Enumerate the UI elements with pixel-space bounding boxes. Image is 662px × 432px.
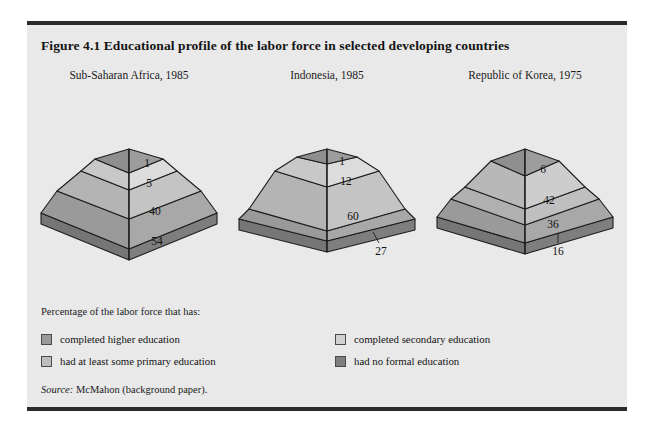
pyramid-chart-group: Sub-Saharan Africa, 1985 xyxy=(27,69,627,287)
legend-swatch-icon xyxy=(335,334,346,345)
legend-item-higher-education: completed higher education xyxy=(41,333,180,345)
pyramid-heading: Indonesia, 1985 xyxy=(227,69,427,81)
value-label-2-1: 42 xyxy=(543,194,555,206)
legend-swatch-icon xyxy=(41,356,52,367)
legend-item-label: had no formal education xyxy=(354,355,459,367)
pyramid-panel-sub-saharan-africa: Sub-Saharan Africa, 1985 xyxy=(29,69,229,287)
value-label-0-3: 54 xyxy=(151,235,163,247)
value-label-2-2: 36 xyxy=(547,218,559,230)
legend-item-secondary-education: completed secondary education xyxy=(335,333,490,345)
source-note: Source: McMahon (background paper). xyxy=(41,384,207,395)
legend-item-no-formal-education: had no formal education xyxy=(335,355,459,367)
source-text: McMahon (background paper). xyxy=(73,384,207,395)
top-rule xyxy=(27,21,627,25)
pyramid-heading: Republic of Korea, 1975 xyxy=(425,69,625,81)
legend-item-primary-education: had at least some primary education xyxy=(41,355,216,367)
value-label-1-1: 12 xyxy=(340,175,352,187)
pyramid-panel-republic-of-korea: Republic of Korea, 1975 xyxy=(425,69,625,287)
value-label-1-2: 60 xyxy=(347,210,359,222)
figure-root: Figure 4.1 Educational profile of the la… xyxy=(0,0,662,432)
pyramid-chart-0: 1 5 40 54 xyxy=(29,91,229,281)
pyramid-heading: Sub-Saharan Africa, 1985 xyxy=(29,69,229,81)
figure-panel: Figure 4.1 Educational profile of the la… xyxy=(27,21,627,411)
value-label-0-1: 5 xyxy=(146,177,152,189)
value-label-2-0: 6 xyxy=(540,163,546,175)
legend-swatch-icon xyxy=(335,356,346,367)
page-title: Figure 4.1 Educational profile of the la… xyxy=(41,38,509,54)
legend-swatch-icon xyxy=(41,334,52,345)
value-label-2-3: 16 xyxy=(552,245,564,257)
value-label-0-2: 40 xyxy=(149,205,161,217)
value-label-1-3: 27 xyxy=(375,245,387,257)
value-label-0-0: 1 xyxy=(144,157,150,169)
legend-item-label: had at least some primary education xyxy=(60,355,216,367)
pyramid-chart-2: 6 42 36 16 xyxy=(425,91,625,281)
pyramid-chart-1: 1 12 60 27 xyxy=(227,91,427,281)
legend: completed higher education completed sec… xyxy=(41,333,621,381)
source-label: Source: xyxy=(41,384,73,395)
pyramid-panel-indonesia: Indonesia, 1985 xyxy=(227,69,427,287)
bottom-rule xyxy=(27,407,627,411)
legend-intro: Percentage of the labor force that has: xyxy=(41,306,200,317)
legend-item-label: completed higher education xyxy=(60,333,180,345)
legend-item-label: completed secondary education xyxy=(354,333,490,345)
value-label-1-0: 1 xyxy=(339,155,345,167)
